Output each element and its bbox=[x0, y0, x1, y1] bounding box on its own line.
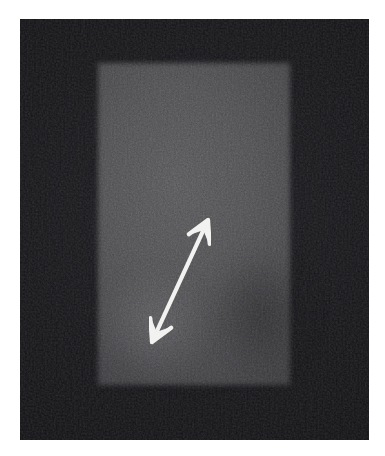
dark-imaging-field bbox=[20, 19, 369, 440]
roi-dark-patch bbox=[205, 249, 315, 379]
roi-bright-patch bbox=[100, 269, 210, 379]
figure-root bbox=[0, 0, 385, 456]
